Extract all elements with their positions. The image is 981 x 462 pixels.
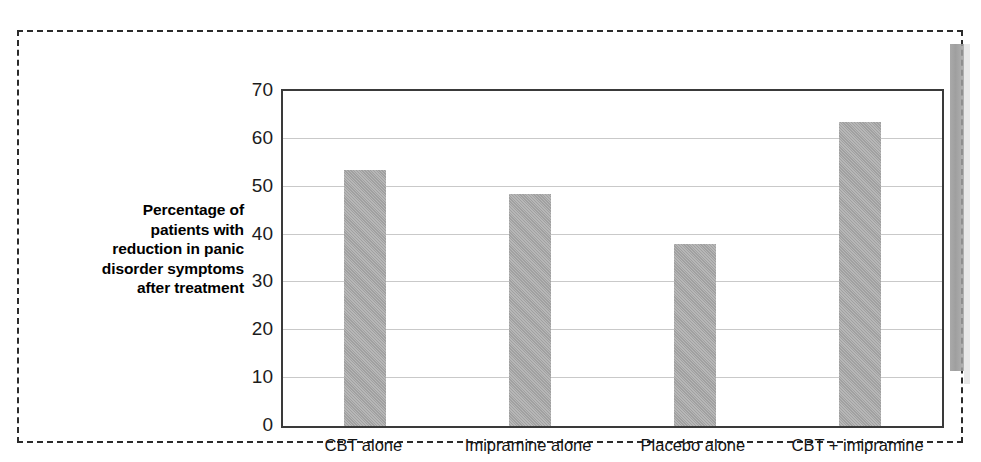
x-tick-label-1: Imipramine alone [465,436,592,455]
x-tick-label-2: Placebo alone [641,436,746,455]
bar-cbt-alone [344,170,386,426]
x-tick-label-0: CBT alone [325,436,403,455]
x-axis-tick-labels: CBT aloneImipramine alonePlacebo aloneCB… [281,436,944,462]
page-edge-shadow [964,44,970,384]
y-tick-label-30: 30 [227,271,273,290]
y-axis-tick-labels: 010203040506070 [217,89,273,428]
y-tick-label-50: 50 [227,175,273,194]
x-tick-label-3: CBT + imipramine [792,436,924,455]
plot-area [281,89,944,428]
y-tick-label-0: 0 [227,415,273,434]
y-tick-label-10: 10 [227,367,273,386]
figure-dashed-border: Percentage of patients with reduction in… [17,30,963,443]
y-tick-label-20: 20 [227,319,273,338]
page-edge-artifact [950,44,964,371]
bar-placebo-alone [674,244,716,426]
y-tick-label-40: 40 [227,223,273,242]
y-tick-label-70: 70 [227,80,273,99]
y-tick-label-60: 60 [227,127,273,146]
bar-cbt-imipramine [839,122,881,426]
bar-imipramine-alone [509,194,551,426]
